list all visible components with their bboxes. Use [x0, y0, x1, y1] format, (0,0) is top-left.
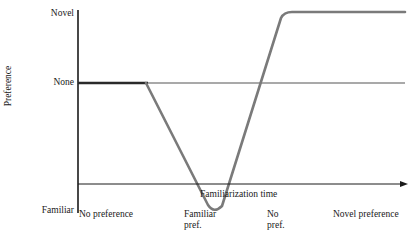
phase-no-preference: No preference [79, 209, 133, 220]
chart-canvas [0, 0, 420, 238]
phase-familiar-pref-line1: Familiar [184, 209, 216, 220]
y-axis-label: Preference [3, 66, 13, 107]
y-tick-none: None [14, 77, 74, 88]
x-axis-arrowhead-icon [400, 181, 408, 187]
x-axis-label: Familiarization time [200, 189, 277, 200]
phase-no-pref-line2: pref. [267, 220, 285, 231]
y-tick-familiar: Familiar [14, 205, 74, 216]
phase-familiar-pref-line2: pref. [184, 220, 202, 231]
phase-novel-preference: Novel preference [333, 209, 399, 220]
phase-no-pref-line1: No [267, 209, 279, 220]
preference-curve [146, 12, 405, 210]
y-tick-novel: Novel [14, 8, 74, 19]
